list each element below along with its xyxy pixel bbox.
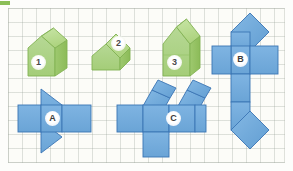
net-b-label-text: B <box>237 55 244 64</box>
solid-1-label: 1 <box>31 55 46 70</box>
figures-layer <box>0 0 293 171</box>
solid-3-label: 3 <box>167 55 182 70</box>
net-c-label: C <box>166 111 181 126</box>
net-b-label: B <box>233 52 248 67</box>
solid-3-label-text: 3 <box>172 58 177 67</box>
net-b-shape <box>212 13 278 149</box>
net-c-shape <box>117 80 211 157</box>
net-a-label-text: A <box>49 114 56 123</box>
solid-1-label-text: 1 <box>36 58 41 67</box>
net-a-label: A <box>45 111 60 126</box>
solid-2-label: 2 <box>111 36 126 51</box>
net-c-label-text: C <box>170 114 177 123</box>
worksheet-canvas: 1 2 3 A B C <box>0 0 293 171</box>
solid-2-label-text: 2 <box>116 39 121 48</box>
